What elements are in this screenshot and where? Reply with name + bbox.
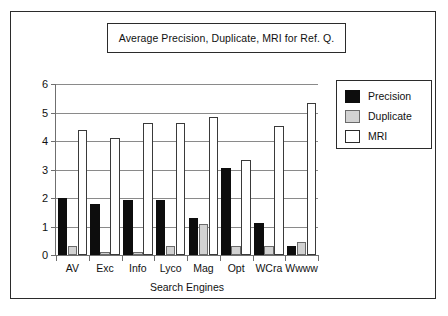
bar-duplicate <box>68 246 78 255</box>
legend-label: Duplicate <box>368 110 412 122</box>
chart-legend: PrecisionDuplicateMRI <box>336 80 432 149</box>
x-tick-mark <box>285 256 286 261</box>
x-tick-label: Info <box>129 262 147 274</box>
y-tick-mark <box>51 227 55 228</box>
bar-mri <box>307 103 317 255</box>
y-tick-label: 4 <box>32 135 48 147</box>
x-tick-mark <box>122 256 123 261</box>
y-tick-mark <box>51 170 55 171</box>
bar-duplicate <box>231 246 241 255</box>
bar-mri <box>176 123 186 255</box>
x-tick-mark <box>220 256 221 261</box>
bar-precision <box>254 223 264 255</box>
y-tick-label: 3 <box>32 164 48 176</box>
bar-duplicate <box>133 252 143 255</box>
bar-mri <box>241 160 251 255</box>
y-tick-label: 5 <box>32 107 48 119</box>
legend-item-duplicate[interactable]: Duplicate <box>345 106 431 126</box>
x-tick-mark <box>318 256 319 261</box>
bar-mri <box>209 117 219 255</box>
bar-duplicate <box>199 224 209 255</box>
x-tick-label: Exc <box>96 262 114 274</box>
legend-swatch-precision-icon <box>345 90 360 103</box>
legend-label: MRI <box>368 130 387 142</box>
x-tick-mark <box>89 256 90 261</box>
bar-precision <box>287 246 297 255</box>
bar-group <box>221 84 251 255</box>
bar-duplicate <box>100 252 110 255</box>
bar-duplicate <box>297 242 307 255</box>
legend-item-precision[interactable]: Precision <box>345 86 431 106</box>
bar-mri <box>78 130 88 255</box>
bar-group <box>254 84 284 255</box>
bar-mri <box>110 138 120 255</box>
bar-group <box>123 84 153 255</box>
bar-duplicate <box>166 246 176 255</box>
y-tick-label: 0 <box>32 249 48 261</box>
x-tick-label: Wwww <box>285 262 318 274</box>
legend-swatch-duplicate-icon <box>345 110 360 123</box>
bar-precision <box>90 204 100 255</box>
bar-duplicate <box>264 246 274 255</box>
bar-precision <box>156 200 166 255</box>
y-tick-mark <box>51 255 55 256</box>
bar-precision <box>58 198 68 255</box>
y-tick-label: 1 <box>32 221 48 233</box>
bar-precision <box>123 200 133 255</box>
x-tick-label: Lyco <box>160 262 182 274</box>
bar-mri <box>274 126 284 255</box>
x-tick-mark <box>187 256 188 261</box>
x-tick-label: Mag <box>193 262 213 274</box>
x-axis-label: Search Engines <box>56 281 318 293</box>
x-tick-label: Opt <box>228 262 245 274</box>
legend-swatch-mri-icon <box>345 130 360 143</box>
bar-group <box>90 84 120 255</box>
x-tick-mark <box>253 256 254 261</box>
y-tick-mark <box>51 198 55 199</box>
bar-group <box>156 84 186 255</box>
bar-group <box>287 84 317 255</box>
y-tick-mark <box>51 113 55 114</box>
y-tick-label: 6 <box>32 78 48 90</box>
bar-precision <box>189 218 199 255</box>
x-tick-label: AV <box>66 262 79 274</box>
x-tick-mark <box>56 256 57 261</box>
y-tick-mark <box>51 141 55 142</box>
chart-figure: Average Precision, Duplicate, MRI for Re… <box>0 0 448 316</box>
y-tick-label: 2 <box>32 192 48 204</box>
legend-label: Precision <box>368 90 411 102</box>
x-tick-label: WCra <box>255 262 282 274</box>
bar-precision <box>221 168 231 255</box>
legend-item-mri[interactable]: MRI <box>345 126 431 146</box>
y-tick-mark <box>51 84 55 85</box>
bar-group <box>58 84 88 255</box>
bar-mri <box>143 123 153 255</box>
x-tick-mark <box>154 256 155 261</box>
bar-group <box>189 84 219 255</box>
plot-area <box>56 84 318 255</box>
